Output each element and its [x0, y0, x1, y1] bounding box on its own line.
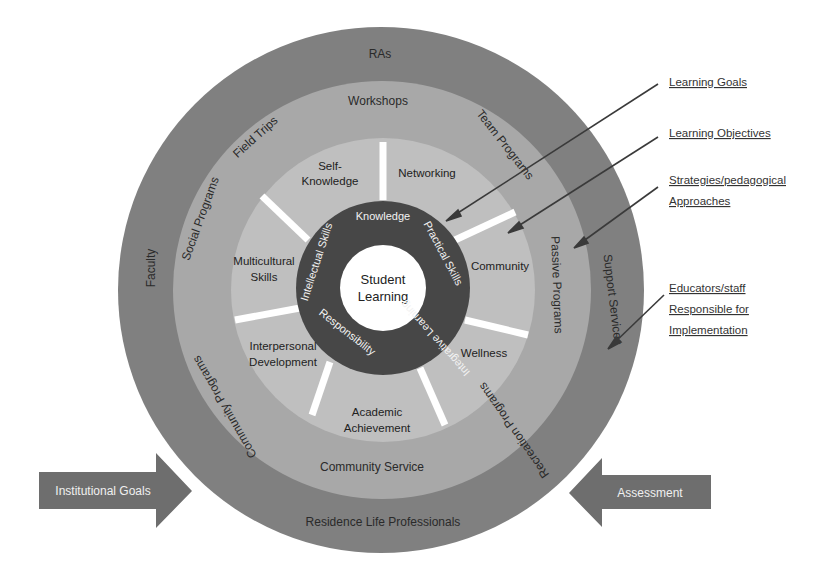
- staff-faculty: Faculty: [144, 249, 158, 288]
- outcome-multicultural-1: Multicultural: [233, 255, 294, 267]
- outcome-self-knowledge-1: Self-: [318, 160, 342, 172]
- outcome-interpersonal-2: Development: [249, 356, 318, 368]
- student-learning-diagram: Student Learning Knowledge Practical Ski…: [0, 0, 836, 581]
- assessment-label: Assessment: [617, 486, 683, 500]
- outcome-academic-1: Academic: [352, 406, 403, 418]
- outcome-interpersonal-1: Interpersonal: [249, 340, 316, 352]
- center-label-line1: Student: [361, 272, 406, 287]
- legend-strategies-2: Approaches: [669, 195, 731, 207]
- legend-strategies-1: Strategies/pedagogical: [669, 174, 786, 186]
- legend-educators-1: Educators/staff: [669, 282, 746, 294]
- outcome-community: Community: [471, 260, 529, 272]
- core-label-knowledge: Knowledge: [356, 210, 410, 222]
- program-workshops: Workshops: [348, 94, 408, 108]
- outcome-networking: Networking: [398, 167, 456, 179]
- outcome-multicultural-2: Skills: [251, 271, 278, 283]
- legend-learning-objectives: Learning Objectives: [669, 127, 771, 139]
- assessment-arrow: Assessment: [569, 458, 711, 527]
- outcome-self-knowledge-2: Knowledge: [302, 175, 359, 187]
- institutional-goals-arrow: Institutional Goals: [39, 453, 192, 528]
- program-community-service: Community Service: [320, 460, 424, 474]
- legend-learning-goals: Learning Goals: [669, 76, 747, 88]
- center-label-line2: Learning: [358, 289, 409, 304]
- staff-ras: RAs: [369, 47, 392, 61]
- outcome-academic-2: Achievement: [344, 422, 411, 434]
- outcome-wellness: Wellness: [461, 347, 508, 359]
- legend-educators-2: Responsible for: [669, 303, 749, 315]
- institutional-goals-label: Institutional Goals: [55, 484, 150, 498]
- staff-residence-life: Residence Life Professionals: [306, 515, 461, 529]
- legend-educators-3: Implementation: [669, 324, 748, 336]
